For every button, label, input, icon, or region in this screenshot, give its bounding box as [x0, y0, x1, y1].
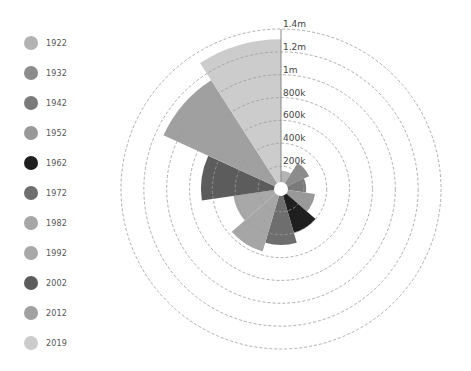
tick-label: 1.4m [283, 19, 306, 29]
tick-label: 600k [283, 110, 306, 120]
tick-label: 1m [283, 65, 298, 75]
polar-area-chart: 200k400k600k800k1m1.2m1.4m [0, 0, 471, 371]
tick-label: 800k [283, 88, 306, 98]
tick-label: 1.2m [283, 42, 306, 52]
tick-label: 200k [283, 156, 306, 166]
axis-tick-labels: 200k400k600k800k1m1.2m1.4m [283, 19, 306, 166]
center-hole [274, 182, 288, 196]
tick-label: 400k [283, 133, 306, 143]
